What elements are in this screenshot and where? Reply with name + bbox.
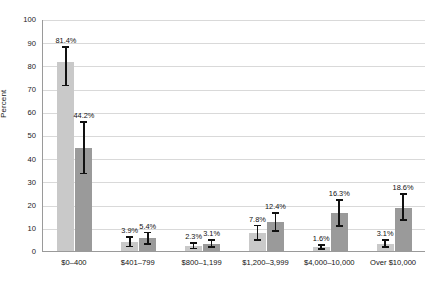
error-bar xyxy=(75,19,92,251)
gridline xyxy=(43,20,425,21)
error-bar xyxy=(267,19,284,251)
bar-group: 3.1%18.6% xyxy=(377,20,412,251)
gridline xyxy=(43,43,425,44)
bar-value-label: 2.3% xyxy=(185,232,202,241)
y-axis-tick-label: 30 xyxy=(0,178,36,187)
y-axis-tick-label: 10 xyxy=(0,224,36,233)
x-axis-tick-label: $1,200–3,999 xyxy=(242,258,288,267)
error-bar xyxy=(203,19,220,251)
bar-value-label: 1.6% xyxy=(313,234,330,243)
error-bar xyxy=(377,19,394,251)
y-axis-tick-label: 80 xyxy=(0,62,36,71)
y-axis-tick-label: 20 xyxy=(0,201,36,210)
bar-group: 2.3%3.1% xyxy=(185,20,220,251)
bar-chart-figure: Personal wealth Personal and family weal… xyxy=(0,0,439,287)
bar-value-label: 44.2% xyxy=(73,111,94,120)
bar-value-label: 3.1% xyxy=(203,229,220,238)
bar-value-label: 5.4% xyxy=(139,222,156,231)
bar-value-label: 12.4% xyxy=(265,202,286,211)
gridline xyxy=(43,159,425,160)
gridline xyxy=(43,206,425,207)
bar-group: 3.9%5.4% xyxy=(121,20,156,251)
error-bar xyxy=(185,19,202,251)
y-axis-tick-label: 100 xyxy=(0,15,36,24)
gridline xyxy=(43,113,425,114)
bar-group: 81.4%44.2% xyxy=(57,20,92,251)
bar-value-label: 18.6% xyxy=(393,183,414,192)
gridline xyxy=(43,90,425,91)
bar-value-label: 7.8% xyxy=(249,215,266,224)
error-bar xyxy=(57,19,74,251)
error-bar xyxy=(121,19,138,251)
y-axis-tick-label: 0 xyxy=(0,247,36,256)
error-bar xyxy=(313,19,330,251)
error-bar xyxy=(139,19,156,251)
bar-value-label: 81.4% xyxy=(55,36,76,45)
bar-value-label: 3.9% xyxy=(121,226,138,235)
x-axis-tick-label: Over $10,000 xyxy=(370,258,416,267)
plot-area: 81.4%44.2%3.9%5.4%2.3%3.1%7.8%12.4%1.6%1… xyxy=(42,20,425,252)
error-bar xyxy=(395,19,412,251)
bar-value-label: 16.3% xyxy=(329,189,350,198)
y-axis-tick-label: 60 xyxy=(0,108,36,117)
y-axis-tick-labels: 0102030405060708090100 xyxy=(0,0,40,287)
x-axis-tick-label: $401–799 xyxy=(121,258,155,267)
gridline xyxy=(43,182,425,183)
y-axis-tick-label: 40 xyxy=(0,155,36,164)
y-axis-tick-label: 90 xyxy=(0,39,36,48)
bar-group: 7.8%12.4% xyxy=(249,20,284,251)
gridline xyxy=(43,66,425,67)
gridline xyxy=(43,136,425,137)
y-axis-tick-label: 50 xyxy=(0,131,36,140)
y-axis-tick-label: 70 xyxy=(0,85,36,94)
gridline xyxy=(43,229,425,230)
x-axis-tick-label: $800–1,199 xyxy=(182,258,222,267)
x-axis-tick-label: $4,000–10,000 xyxy=(304,258,355,267)
error-bar xyxy=(331,19,348,251)
bar-value-label: 3.1% xyxy=(377,229,394,238)
bar-group: 1.6%16.3% xyxy=(313,20,348,251)
x-axis-tick-label: $0–400 xyxy=(61,258,86,267)
